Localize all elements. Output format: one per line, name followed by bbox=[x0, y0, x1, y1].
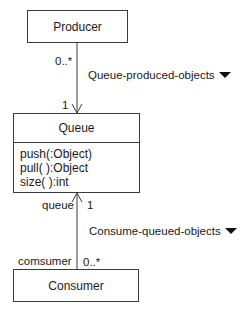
queue-operations: push(:Object) pull( ):Object size( ):int bbox=[20, 147, 92, 189]
queue-multiplicity-consumed: 1 bbox=[87, 199, 93, 211]
consumer-role: comsumer bbox=[18, 255, 72, 267]
producer-multiplicity: 0..* bbox=[55, 55, 72, 67]
consumed-association-name-label: Consume-queued-objects bbox=[89, 225, 237, 237]
produced-association-name: Queue-produced-objects bbox=[88, 69, 215, 81]
produced-association-name-label: Queue-produced-objects bbox=[88, 69, 231, 81]
consumed-association-name: Consume-queued-objects bbox=[89, 225, 221, 237]
queue-multiplicity-produced: 1 bbox=[62, 99, 68, 111]
class-compartment-divider bbox=[14, 142, 139, 143]
triangle-down-icon bbox=[225, 228, 237, 234]
operation-size: size( ):int bbox=[20, 175, 92, 189]
producer-class[interactable]: Producer bbox=[27, 10, 128, 43]
consumer-multiplicity: 0..* bbox=[83, 256, 100, 268]
producer-class-name: Producer bbox=[28, 20, 127, 34]
queue-class-name: Queue bbox=[14, 121, 139, 135]
operation-push: push(:Object) bbox=[20, 147, 92, 161]
queue-role: queue bbox=[42, 199, 74, 211]
operation-pull: pull( ):Object bbox=[20, 161, 92, 175]
consumer-class-name: Consumer bbox=[14, 279, 138, 293]
consumer-class[interactable]: Consumer bbox=[13, 269, 139, 302]
triangle-down-icon bbox=[219, 72, 231, 78]
queue-class[interactable]: Queue push(:Object) pull( ):Object size(… bbox=[13, 113, 140, 193]
